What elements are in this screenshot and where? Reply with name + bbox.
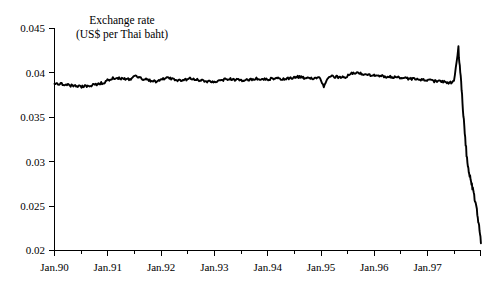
y-tick-label-5: 0.02 <box>26 244 45 256</box>
y-tick-label-1: 0.04 <box>26 67 46 79</box>
x-tick-label-5: Jan.95 <box>307 261 336 273</box>
y-tick-label-2: 0.035 <box>20 111 45 123</box>
chart-title-group: Exchange rate (US$ per Thai baht) <box>76 14 168 41</box>
x-tick-label-2: Jan.92 <box>147 261 175 273</box>
y-axis: 0.045 0.04 0.035 0.03 0.025 0.02 <box>20 22 54 256</box>
x-tick-label-0: Jan.90 <box>40 261 69 273</box>
y-tick-label-0: 0.045 <box>20 22 45 34</box>
x-axis: Jan.90 Jan.91 Jan.92 Jan.93 Jan.94 Jan.9… <box>40 251 481 274</box>
chart-title: Exchange rate <box>89 14 154 27</box>
x-tick-label-7: Jan.97 <box>413 261 442 273</box>
chart-figure: Exchange rate (US$ per Thai baht) 0.045 … <box>0 0 499 291</box>
plot-area <box>55 46 481 243</box>
y-tick-label-4: 0.025 <box>20 200 45 212</box>
x-tick-label-6: Jan.96 <box>360 261 389 273</box>
x-tick-label-4: Jan.94 <box>253 261 282 273</box>
x-tick-label-3: Jan.93 <box>200 261 229 273</box>
chart-subtitle: (US$ per Thai baht) <box>76 28 168 41</box>
y-tick-label-3: 0.03 <box>26 156 46 168</box>
x-tick-label-1: Jan.91 <box>94 261 122 273</box>
exchange-rate-line-chart: Exchange rate (US$ per Thai baht) 0.045 … <box>0 0 499 291</box>
exchange-rate-series-line <box>55 46 481 243</box>
